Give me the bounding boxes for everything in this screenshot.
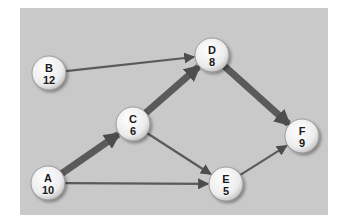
edge-e-to-f bbox=[240, 146, 286, 175]
node-b: B12 bbox=[32, 56, 66, 90]
node-value: 5 bbox=[223, 185, 229, 197]
edge-a-to-c-critical bbox=[62, 134, 118, 173]
edge-c-to-d-critical bbox=[146, 67, 199, 113]
node-value: 8 bbox=[209, 56, 215, 68]
network-diagram: A10B12C6D8E5F9 bbox=[0, 0, 340, 223]
node-name: C bbox=[129, 113, 137, 125]
edge-d-to-f-critical bbox=[225, 66, 289, 124]
node-name: B bbox=[45, 62, 53, 74]
node-value: 6 bbox=[130, 125, 136, 137]
node-value: 10 bbox=[42, 184, 54, 196]
node-value: 9 bbox=[299, 137, 305, 149]
node-name: E bbox=[222, 173, 229, 185]
edge-a-to-e bbox=[65, 183, 208, 184]
node-d: D8 bbox=[195, 38, 229, 72]
edge-c-to-e bbox=[147, 133, 211, 174]
node-name: D bbox=[208, 44, 216, 56]
node-name: F bbox=[299, 125, 306, 137]
node-c: C6 bbox=[116, 107, 150, 141]
nodes-layer: A10B12C6D8E5F9 bbox=[31, 38, 319, 201]
node-a: A10 bbox=[31, 166, 65, 200]
node-name: A bbox=[44, 172, 52, 184]
edge-b-to-d bbox=[66, 57, 194, 71]
node-f: F9 bbox=[285, 119, 319, 153]
node-e: E5 bbox=[209, 167, 243, 201]
edges-layer bbox=[62, 57, 289, 184]
node-value: 12 bbox=[43, 74, 55, 86]
